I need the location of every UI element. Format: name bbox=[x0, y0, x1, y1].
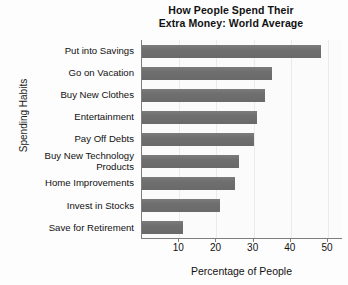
category-label: Buy New Clothes bbox=[21, 90, 134, 101]
bar bbox=[142, 177, 235, 190]
x-tick-label: 40 bbox=[277, 242, 303, 253]
chart-title-line-2: Extra Money: World Average bbox=[120, 17, 342, 30]
category-label: Buy New Technology Products bbox=[21, 151, 134, 172]
bar bbox=[142, 133, 254, 146]
category-label: Home Improvements bbox=[21, 178, 134, 189]
x-tick-label: 50 bbox=[314, 242, 340, 253]
bar bbox=[142, 199, 220, 212]
category-label: Put into Savings bbox=[21, 46, 134, 57]
x-tick-label: 10 bbox=[165, 242, 191, 253]
plot-area bbox=[141, 40, 342, 239]
category-label: Go on Vacation bbox=[21, 68, 134, 79]
chart-title: How People Spend Their Extra Money: Worl… bbox=[120, 4, 342, 30]
category-label: Entertainment bbox=[21, 112, 134, 123]
gridline bbox=[328, 40, 329, 238]
category-label: Pay Off Debts bbox=[21, 134, 134, 145]
gridline bbox=[291, 40, 292, 238]
bar bbox=[142, 111, 257, 124]
y-axis-category-labels: Put into SavingsGo on VacationBuy New Cl… bbox=[24, 40, 137, 239]
category-label: Invest in Stocks bbox=[21, 201, 134, 212]
bar-chart-figure: How People Spend Their Extra Money: Worl… bbox=[0, 0, 348, 285]
bar bbox=[142, 89, 265, 102]
x-tick-label: 30 bbox=[240, 242, 266, 253]
x-axis-ticks: 1020304050 bbox=[141, 239, 342, 253]
bar bbox=[142, 155, 239, 168]
bar bbox=[142, 67, 272, 80]
category-label: Save for Retirement bbox=[21, 223, 134, 234]
chart-title-line-1: How People Spend Their bbox=[168, 4, 293, 16]
x-tick-label: 20 bbox=[202, 242, 228, 253]
bar bbox=[142, 221, 183, 234]
bar bbox=[142, 45, 321, 58]
x-axis-title: Percentage of People bbox=[141, 265, 342, 277]
